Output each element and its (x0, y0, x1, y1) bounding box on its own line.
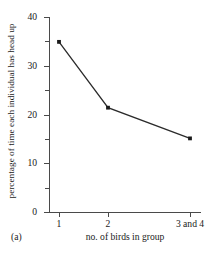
x-tick-label: 3 and 4 (176, 219, 204, 229)
plot-area: 0 10 20 30 40 1 2 3 and 4 (49, 17, 201, 212)
data-point-marker (106, 106, 110, 110)
x-tick (190, 212, 191, 217)
x-tick-label: 2 (106, 219, 111, 229)
x-tick (59, 212, 60, 217)
y-tick-label: 10 (9, 158, 37, 168)
x-axis-title: no. of birds in group (49, 232, 201, 242)
x-tick (108, 212, 109, 217)
data-series-line (49, 17, 201, 212)
x-axis-line (49, 212, 201, 213)
y-tick-label: 30 (9, 61, 37, 71)
data-point-marker (188, 136, 192, 140)
series-polyline (59, 42, 190, 139)
y-tick-major: 0 (44, 212, 49, 213)
series-markers (57, 40, 192, 140)
y-tick-label: 40 (9, 12, 37, 22)
data-point-marker (57, 40, 61, 44)
y-tick-label: 0 (9, 207, 37, 217)
y-tick-label: 20 (9, 110, 37, 120)
panel-label: (a) (11, 232, 22, 242)
x-tick-label: 1 (57, 219, 62, 229)
chart-figure: percentage of time each individual has h… (0, 0, 211, 260)
